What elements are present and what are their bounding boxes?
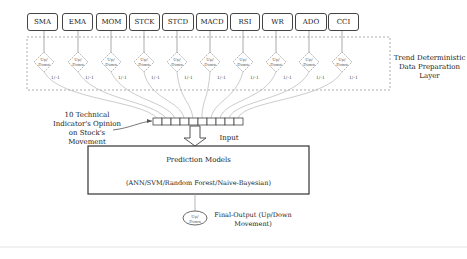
diamond-label: Up/ Down [134,57,154,67]
binary-label: 1/-1 [118,75,127,80]
diamond-label: Up/ Down [266,57,286,67]
indicator-rsi: RSI [230,13,260,31]
diamond-label: Up/ Down [332,57,352,67]
indicator-stcd: STCD [162,13,194,31]
diamond-label: Up/ Down [200,57,220,67]
diamond-label: Up/ Down [233,57,253,67]
indicator-stck: STCK [129,13,160,31]
indicator-mom: MOM [96,13,127,31]
diamond-label: Up/ Down [299,57,319,67]
indicator-ema: EMA [62,13,93,31]
indicator-wr: WR [262,13,293,31]
diamond-label: Up/ Down [101,57,121,67]
diamond-label: Up/ Down [167,57,187,67]
indicator-sma: SMA [27,13,58,31]
binary-label: 1/-1 [349,75,358,80]
layer-label: Trend Deterministic Data Preparation Lay… [392,54,467,81]
opinion-label: 10 Technical Indicator's Opinion on Stoc… [52,111,122,147]
binary-label: 1/-1 [151,75,160,80]
input-label: Input [214,134,244,143]
indicator-ado: ADO [295,13,327,31]
binary-label: 1/-1 [51,75,60,80]
diamond-label: Up/ Down [68,57,88,67]
final-output-label: Final-Output (Up/Down Movement) [208,211,298,229]
binary-label: 1/-1 [283,75,292,80]
output-node-label: Up/ Down [185,214,205,224]
model-list: (ANN/SVM/Random Forest/Naive-Bayesian) [88,179,309,188]
binary-label: 1/-1 [250,75,259,80]
binary-label: 1/-1 [316,75,325,80]
binary-label: 1/-1 [85,75,94,80]
model-title: Prediction Models [88,156,309,165]
diamond-label: Up/ Down [34,57,54,67]
indicator-macd: MACD [196,13,228,31]
indicator-cci: CCI [328,13,359,31]
binary-label: 1/-1 [217,75,226,80]
binary-label: 1/-1 [184,75,193,80]
